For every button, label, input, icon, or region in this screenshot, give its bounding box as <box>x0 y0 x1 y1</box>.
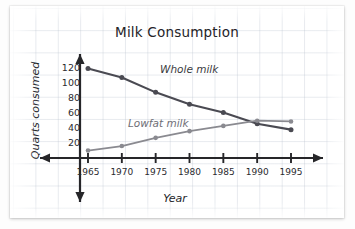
x-tick-label: 1975 <box>139 167 173 177</box>
chart-plot-area: Milk Consumption Quarts consumed Year Wh… <box>10 6 344 218</box>
x-tick-label: 1970 <box>105 167 139 177</box>
x-tick-label: 1995 <box>274 167 308 177</box>
graph-paper-sheet: Milk Consumption Quarts consumed Year Wh… <box>10 6 344 218</box>
x-tick-label: 1965 <box>71 167 105 177</box>
x-tick-label: 1990 <box>240 167 274 177</box>
x-tick-label: 1985 <box>206 167 240 177</box>
x-tick-label: 1980 <box>173 167 207 177</box>
chart-screenshot: Milk Consumption Quarts consumed Year Wh… <box>0 0 355 229</box>
x-axis-tick-labels: 1965197019751980198519901995 <box>10 6 344 218</box>
